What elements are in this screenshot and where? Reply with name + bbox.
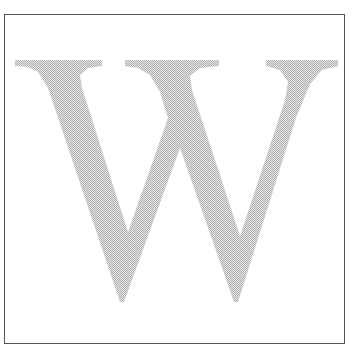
letter-w-glyph (0, 0, 352, 352)
